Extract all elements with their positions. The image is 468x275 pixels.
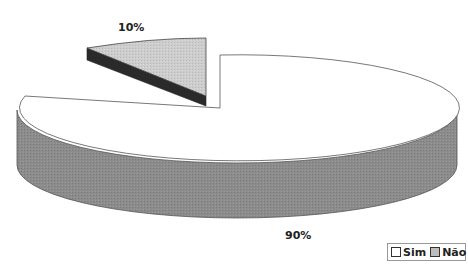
slice-sim-top <box>19 55 459 161</box>
label-sim-pct: 90% <box>285 229 311 242</box>
legend-item-sim: Sim <box>391 246 426 259</box>
legend-swatch-nao <box>430 247 440 257</box>
label-nao-pct: 10% <box>118 21 144 34</box>
legend: Sim Não <box>387 243 466 261</box>
legend-swatch-sim <box>391 247 401 257</box>
legend-label-nao: Não <box>442 246 466 259</box>
pie-chart <box>0 0 468 275</box>
legend-label-sim: Sim <box>403 246 426 259</box>
legend-item-nao: Não <box>430 246 466 259</box>
